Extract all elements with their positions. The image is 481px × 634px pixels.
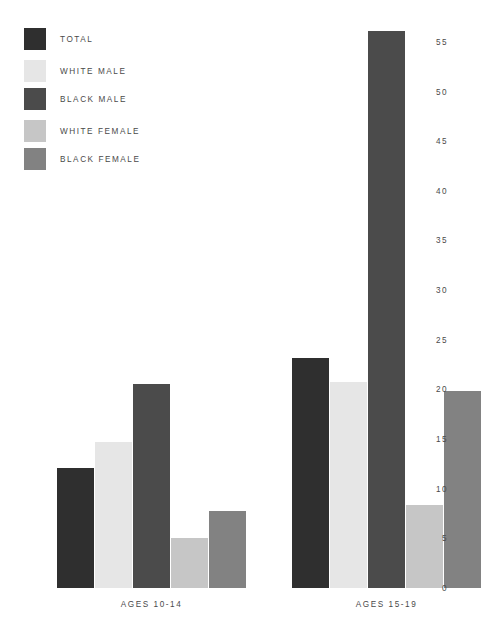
bar bbox=[368, 31, 405, 588]
y-axis-tick: 30 bbox=[436, 286, 448, 295]
bar bbox=[57, 468, 94, 588]
y-axis-tick: 55 bbox=[436, 37, 448, 46]
y-axis-tick: 40 bbox=[436, 186, 448, 195]
y-axis-tick: 15 bbox=[436, 435, 448, 444]
x-axis-label: AGES 15-19 bbox=[356, 600, 417, 609]
y-axis-tick: 10 bbox=[436, 484, 448, 493]
y-axis-tick: 50 bbox=[436, 87, 448, 96]
y-axis-tick: 0 bbox=[442, 584, 448, 593]
x-axis-label: AGES 10-14 bbox=[121, 600, 182, 609]
bar bbox=[95, 442, 132, 588]
bar bbox=[133, 384, 170, 588]
y-axis-tick: 20 bbox=[436, 385, 448, 394]
y-axis-tick: 45 bbox=[436, 137, 448, 146]
bar bbox=[292, 358, 329, 588]
y-axis: 0510152025303540455055 bbox=[422, 0, 462, 634]
bar bbox=[209, 511, 246, 588]
y-axis-tick: 5 bbox=[442, 534, 448, 543]
bar bbox=[330, 382, 367, 588]
y-axis-tick: 25 bbox=[436, 335, 448, 344]
bar bbox=[171, 538, 208, 588]
y-axis-tick: 35 bbox=[436, 236, 448, 245]
